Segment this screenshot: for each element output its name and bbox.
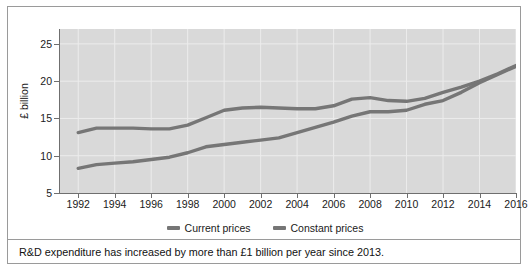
legend-label: Current prices [185, 223, 251, 234]
legend-item-0[interactable]: Current prices [167, 223, 251, 234]
legend-swatch-icon [273, 226, 286, 230]
x-tick-label: 2010 [387, 199, 427, 210]
x-tick-label: 1998 [168, 199, 208, 210]
x-tick-label: 2012 [423, 199, 463, 210]
caption-box: R&D expenditure has increased by more th… [8, 239, 520, 264]
x-tick-label: 2004 [277, 199, 317, 210]
y-tick-label: 10 [8, 151, 52, 162]
x-tick-label: 2006 [314, 199, 354, 210]
y-tick-label: 25 [8, 39, 52, 50]
legend-label: Constant prices [291, 223, 364, 234]
chart-area: £ billion 510152025 19921994199619982000… [8, 7, 522, 212]
x-tick-label: 1994 [95, 199, 135, 210]
x-tick-label: 2008 [350, 199, 390, 210]
chart-legend: Current pricesConstant prices [8, 218, 522, 238]
x-axis-line [59, 193, 517, 194]
y-axis-line [59, 29, 60, 194]
y-tick-label: 20 [8, 76, 52, 87]
y-tick-mark [54, 44, 60, 45]
plot-area [60, 29, 516, 193]
x-tick-label: 2002 [241, 199, 281, 210]
x-tick-label: 2014 [460, 199, 500, 210]
y-tick-mark [54, 118, 60, 119]
series-canvas [60, 29, 516, 193]
y-tick-mark [54, 156, 60, 157]
y-tick-labels: 510152025 [8, 7, 52, 212]
legend-swatch-icon [167, 226, 180, 230]
x-tick-label: 2000 [204, 199, 244, 210]
x-tick-label: 2016 [496, 199, 529, 210]
figure-panel: £ billion 510152025 19921994199619982000… [7, 6, 521, 264]
gridlines [60, 29, 516, 193]
caption-text: R&D expenditure has increased by more th… [8, 247, 384, 258]
x-tick-label: 1992 [58, 199, 98, 210]
legend-item-1[interactable]: Constant prices [273, 223, 364, 234]
y-tick-label: 5 [8, 188, 52, 199]
y-tick-label: 15 [8, 113, 52, 124]
x-tick-label: 1996 [131, 199, 171, 210]
y-tick-mark [54, 193, 60, 194]
y-tick-mark [54, 81, 60, 82]
